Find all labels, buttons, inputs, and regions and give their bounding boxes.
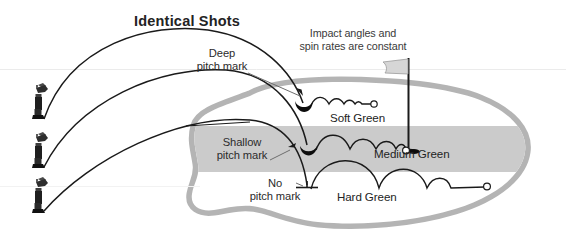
callout-deep-pitch-mark: Deep pitch mark [176,47,268,73]
ball-hard-green [484,183,491,190]
page-title: Identical Shots [134,13,240,30]
callout-shallow-line-1: Shallow [204,136,280,149]
ball-soft-green [371,101,377,107]
flag-banner [383,59,408,74]
golf-green-firmness-diagram: Identical Shots Impact angles and spin r… [0,0,566,244]
golfer-figure [32,177,48,213]
impact-note-line-2: spin rates are constant [280,40,426,53]
label-medium-green: Medium Green [374,147,449,161]
callout-no-pitch-mark: No pitch mark [239,177,311,203]
callout-deep-line-2: pitch mark [176,60,268,73]
callout-no-line-1: No [239,177,311,190]
callout-shallow-pitch-mark: Shallow pitch mark [204,136,280,162]
callout-shallow-line-2: pitch mark [204,149,280,162]
golfer-figure-group [32,83,48,213]
impact-note-line-1: Impact angles and [280,27,426,40]
callout-deep-line-1: Deep [176,47,268,60]
impact-note: Impact angles and spin rates are constan… [280,27,426,52]
label-soft-green: Soft Green [330,111,385,125]
callout-no-line-2: pitch mark [239,190,311,203]
label-hard-green: Hard Green [337,190,397,204]
